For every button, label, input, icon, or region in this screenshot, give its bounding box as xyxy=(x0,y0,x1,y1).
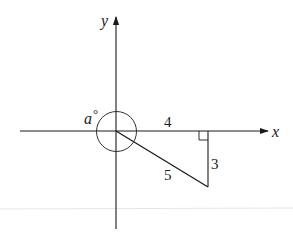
opposite-side-label: 3 xyxy=(211,156,219,172)
right-angle-marker xyxy=(199,131,208,140)
angle-variable-label: a xyxy=(84,110,92,127)
x-axis-label: x xyxy=(271,123,279,140)
hypotenuse-line xyxy=(116,131,208,187)
hypotenuse-label: 5 xyxy=(164,167,172,183)
coordinate-diagram: y x a ° 4 3 5 xyxy=(0,0,293,244)
angle-degree-symbol: ° xyxy=(93,106,98,121)
scan-artifact-line xyxy=(0,208,293,209)
adjacent-side-label: 4 xyxy=(164,114,172,130)
y-axis-label: y xyxy=(99,12,109,30)
